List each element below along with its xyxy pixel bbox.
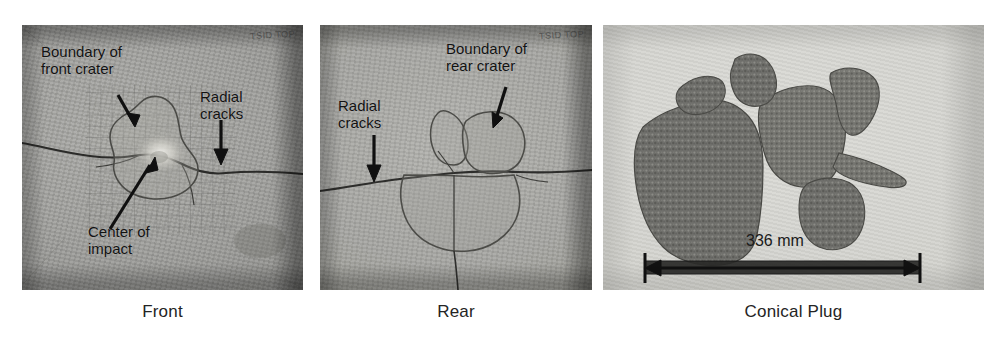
panel-conical-plug: 336 mm Conical Plug [603, 25, 984, 290]
impact-damage-figure: TSID TOP Boundary of front crater Radial… [0, 0, 984, 347]
scale-bar-label: 336 mm [746, 232, 804, 250]
panel-rear: TSID TOP Boundary of rear crater Radial … [320, 25, 592, 290]
panel-front: TSID TOP Boundary of front crater Radial… [22, 25, 303, 290]
rear-photograph: TSID TOP Boundary of rear crater Radial … [320, 25, 592, 290]
front-photograph: TSID TOP Boundary of front crater Radial… [22, 25, 303, 290]
conical-plug-photograph: 336 mm [603, 25, 984, 290]
caption-front: Front [22, 302, 303, 322]
label-radial-cracks: Radial cracks [200, 88, 243, 122]
plug-fragments [603, 25, 984, 290]
label-center-of-impact: Center of impact [88, 223, 150, 257]
label-boundary-of-front-crater: Boundary of front crater [41, 43, 122, 77]
arrow-radial-cracks [367, 135, 381, 182]
caption-conical-plug: Conical Plug [603, 302, 984, 322]
label-radial-cracks: Radial cracks [338, 97, 381, 131]
label-boundary-of-rear-crater: Boundary of rear crater [446, 40, 527, 74]
caption-rear: Rear [320, 302, 592, 322]
